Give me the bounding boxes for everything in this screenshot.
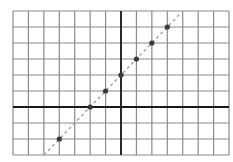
data-point — [118, 72, 123, 77]
data-point — [88, 104, 93, 109]
data-point — [103, 88, 108, 93]
dashed-line-segment — [44, 13, 181, 155]
data-point — [57, 136, 62, 141]
axes — [13, 11, 229, 155]
data-point — [165, 24, 170, 29]
data-point — [149, 40, 154, 45]
dashed-line — [44, 13, 181, 155]
data-point — [134, 56, 139, 61]
coordinate-grid-chart — [0, 0, 233, 162]
